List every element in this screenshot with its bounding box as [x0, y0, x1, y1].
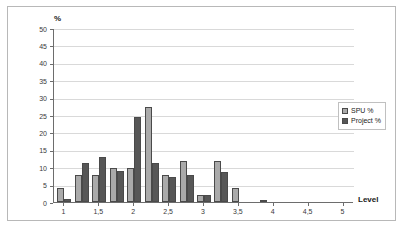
legend-item-spu: SPU % [342, 106, 381, 116]
plot-area [53, 29, 353, 203]
x-axis-tick-label: 3 [193, 208, 213, 216]
gridline [54, 29, 354, 30]
bar [214, 161, 221, 202]
y-axis-tick-label: 20 [29, 130, 47, 137]
x-axis-tick-mark [308, 203, 309, 206]
x-axis-tick-label: 4,5 [298, 208, 318, 216]
x-axis-tick-label: 1 [53, 208, 73, 216]
x-axis-tick-mark [133, 203, 134, 206]
x-axis-tick-mark [63, 203, 64, 206]
gridline [54, 81, 354, 82]
bar [180, 161, 187, 202]
x-axis-tick-mark [273, 203, 274, 206]
gridline [54, 133, 354, 134]
x-axis-tick-mark [203, 203, 204, 206]
x-axis-tick-mark [343, 203, 344, 206]
x-axis-title: Level [358, 196, 378, 204]
bar [92, 175, 99, 202]
legend-swatch-icon-spu [342, 108, 348, 114]
gridline [54, 151, 354, 152]
bar [64, 199, 71, 202]
x-axis-tick-label: 2 [123, 208, 143, 216]
bar [57, 188, 64, 202]
bar [110, 168, 117, 202]
x-axis-tick-label: 2,5 [158, 208, 178, 216]
y-axis-tick-label: 50 [29, 26, 47, 33]
y-axis-tick-label: 5 [29, 182, 47, 189]
bar [117, 171, 124, 202]
bar [82, 163, 89, 202]
y-axis-tick-label: 25 [29, 113, 47, 120]
bar [75, 175, 82, 202]
gridline [54, 99, 354, 100]
bar [99, 157, 106, 202]
y-axis-tick-label: 35 [29, 78, 47, 85]
y-axis-tick-label: 15 [29, 147, 47, 154]
y-axis-tick-label: 10 [29, 165, 47, 172]
gridline [54, 64, 354, 65]
bar [221, 172, 228, 202]
bar [169, 177, 176, 202]
x-axis-tick-label: 1,5 [88, 208, 108, 216]
y-axis-tick-label: 40 [29, 60, 47, 67]
legend-label-project: Project % [351, 117, 381, 125]
bar [127, 168, 134, 202]
x-axis-tick-label: 5 [333, 208, 353, 216]
bar [197, 195, 204, 202]
bar [162, 175, 169, 202]
bar [152, 163, 159, 202]
legend-item-project: Project % [342, 116, 381, 126]
bar [145, 107, 152, 202]
x-axis-tick-mark [238, 203, 239, 206]
y-axis-tick-label: 45 [29, 43, 47, 50]
x-axis-tick-label: 3,5 [228, 208, 248, 216]
gridline [54, 46, 354, 47]
bar [134, 117, 141, 202]
y-axis-tick-label: 30 [29, 95, 47, 102]
bar [204, 195, 211, 202]
x-axis-tick-label: 4 [263, 208, 283, 216]
legend-swatch-icon-project [342, 118, 348, 124]
x-axis-tick-mark [168, 203, 169, 206]
chart-legend: SPU % Project % [338, 102, 386, 130]
bar [187, 175, 194, 202]
chart-frame: % Level 05101520253035404550 11,522,533,… [7, 6, 396, 221]
legend-label-spu: SPU % [351, 107, 374, 115]
y-axis-title: % [54, 15, 61, 23]
bar [260, 200, 267, 202]
y-axis-tick-label: 0 [29, 200, 47, 207]
bar [232, 188, 239, 202]
chart-screenshot: % Level 05101520253035404550 11,522,533,… [0, 0, 404, 229]
gridline [54, 116, 354, 117]
x-axis-tick-mark [98, 203, 99, 206]
y-axis-tick-mark [50, 203, 53, 204]
